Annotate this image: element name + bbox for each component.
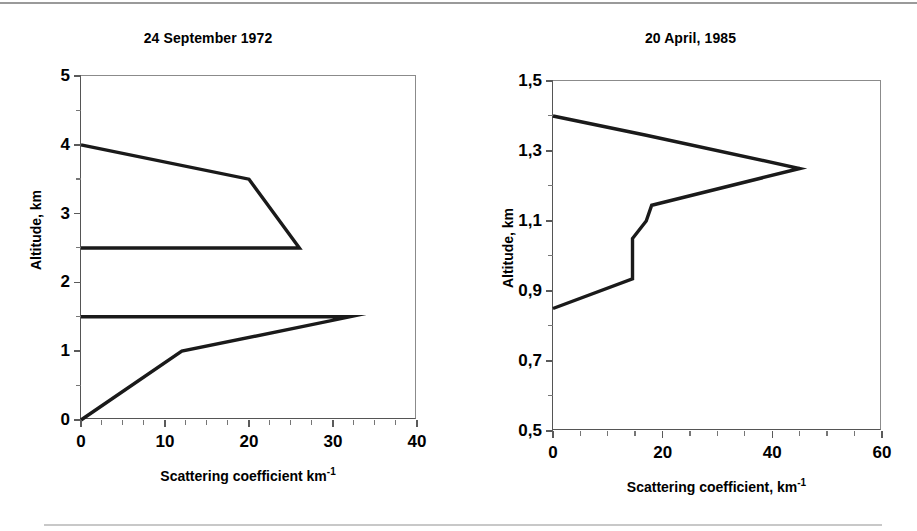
x-minor-tick-1972 [101,420,102,425]
x-minor-tick-1985 [607,431,608,436]
x-axis-title-1985: Scattering coefficient, km-1 [552,477,881,495]
x-major-tick-1972 [332,420,334,427]
x-major-tick-1985 [772,431,774,438]
y-tick-label-1985: 1,3 [518,141,542,161]
x-major-tick-1985 [552,431,554,438]
chart-title-1985: 20 April, 1985 [462,30,917,46]
plot-area-1985: 0,50,70,91,11,31,50204060 [552,80,881,430]
y-major-tick-1972 [74,75,81,77]
y-major-tick-1972 [74,282,81,284]
y-major-tick-1972 [74,144,81,146]
y-tick-label-1985: 0,5 [518,421,542,441]
x-minor-tick-1972 [311,420,312,425]
x-minor-tick-1972 [395,420,396,425]
y-minor-tick-1972 [76,247,81,248]
y-minor-tick-1985 [548,185,553,186]
y-major-tick-1972 [74,350,81,352]
x-axis-title-1985-text: Scattering coefficient, km [627,479,797,495]
chart-panel-1985: 20 April, 1985 Altitude, km Scattering c… [460,0,917,531]
x-minor-tick-1972 [185,420,186,425]
x-minor-tick-1985 [717,431,718,436]
y-minor-tick-1972 [76,110,81,111]
y-minor-tick-1972 [76,385,81,386]
x-axis-title-1972-exponent: -1 [327,466,336,477]
x-major-tick-1985 [662,431,664,438]
x-major-tick-1972 [416,420,418,427]
x-minor-tick-1985 [799,431,800,436]
x-minor-tick-1972 [206,420,207,425]
y-major-tick-1985 [546,150,553,152]
x-minor-tick-1985 [854,431,855,436]
x-minor-tick-1972 [227,420,228,425]
x-tick-label-1972: 10 [156,432,175,452]
x-minor-tick-1972 [143,420,144,425]
x-minor-tick-1985 [826,431,827,436]
y-tick-label-1985: 1,5 [518,71,542,91]
y-tick-label-1985: 1,1 [518,211,542,231]
y-minor-tick-1972 [76,316,81,317]
x-minor-tick-1972 [269,420,270,425]
x-minor-tick-1972 [353,420,354,425]
y-tick-label-1972: 1 [61,341,70,361]
x-minor-tick-1985 [689,431,690,436]
y-tick-label-1985: 0,7 [518,351,542,371]
x-major-tick-1972 [248,420,250,427]
series-line-1985 [553,116,800,309]
x-minor-tick-1985 [744,431,745,436]
data-lines-1985 [553,81,882,431]
chart-panel-1972: 24 September 1972 Altitude, km Scatterin… [0,0,460,531]
series-line-1972 [81,317,350,420]
x-tick-label-1972: 30 [324,432,343,452]
x-minor-tick-1972 [122,420,123,425]
y-major-tick-1985 [546,360,553,362]
y-tick-label-1972: 5 [61,66,70,86]
y-tick-label-1972: 3 [61,204,70,224]
y-tick-label-1985: 0,9 [518,281,542,301]
x-minor-tick-1985 [634,431,635,436]
y-tick-label-1972: 2 [61,272,70,292]
x-minor-tick-1985 [580,431,581,436]
x-tick-label-1985: 60 [873,443,892,463]
x-axis-title-1972: Scattering coefficient km-1 [80,466,416,484]
y-major-tick-1985 [546,220,553,222]
x-tick-label-1972: 0 [76,432,85,452]
x-tick-label-1985: 0 [548,443,557,463]
y-minor-tick-1985 [548,115,553,116]
data-lines-1972 [81,76,417,420]
y-tick-label-1972: 0 [61,410,70,430]
y-minor-tick-1985 [548,255,553,256]
x-minor-tick-1972 [374,420,375,425]
x-major-tick-1972 [80,420,82,427]
y-major-tick-1972 [74,213,81,215]
y-minor-tick-1972 [76,178,81,179]
y-tick-label-1972: 4 [61,135,70,155]
x-tick-label-1972: 40 [408,432,427,452]
y-axis-title-1985: Altitude, km [500,188,516,308]
x-axis-title-1972-text: Scattering coefficient km [160,468,327,484]
x-axis-title-1985-exponent: -1 [797,477,806,488]
x-tick-label-1972: 20 [240,432,259,452]
chart-title-1972: 24 September 1972 [0,30,438,46]
y-minor-tick-1985 [548,395,553,396]
y-minor-tick-1985 [548,325,553,326]
series-line-1972 [81,145,299,248]
y-major-tick-1985 [546,80,553,82]
x-minor-tick-1972 [290,420,291,425]
x-tick-label-1985: 40 [763,443,782,463]
y-axis-title-1972: Altitude, km [28,170,44,290]
x-major-tick-1985 [881,431,883,438]
x-major-tick-1972 [164,420,166,427]
y-major-tick-1985 [546,290,553,292]
plot-area-1972: 012345010203040 [80,75,416,419]
x-tick-label-1985: 20 [653,443,672,463]
